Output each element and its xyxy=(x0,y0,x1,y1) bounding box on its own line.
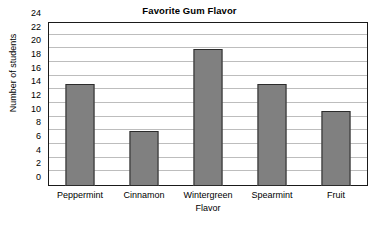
x-axis-tick-labels: PeppermintCinnamonWintergreenSpearmintFr… xyxy=(48,190,368,204)
y-axis-tick-label: 14 xyxy=(31,77,41,86)
y-axis-tick-labels: 024681012141618202224 xyxy=(0,22,46,186)
y-axis-tick-label: 16 xyxy=(31,63,41,72)
y-axis-tick-label: 24 xyxy=(31,9,41,18)
x-axis-tick-label: Peppermint xyxy=(57,190,103,200)
bar-slot xyxy=(112,22,176,186)
bar-slot xyxy=(240,22,304,186)
bar-slot xyxy=(176,22,240,186)
x-axis-tick-label: Fruit xyxy=(327,190,345,200)
bar[interactable] xyxy=(194,49,223,186)
x-axis-tick-label: Spearmint xyxy=(251,190,292,200)
y-axis-tick-label: 8 xyxy=(36,118,41,127)
x-axis-tick-label: Cinnamon xyxy=(123,190,164,200)
bar-slot xyxy=(48,22,112,186)
bar-chart-figure: Favorite Gum Flavor Number of students 0… xyxy=(0,0,379,226)
bar-series xyxy=(48,22,368,186)
y-axis-tick-label: 22 xyxy=(31,22,41,31)
y-axis-tick-label: 10 xyxy=(31,104,41,113)
y-axis-tick-label: 2 xyxy=(36,159,41,168)
y-axis-tick-label: 12 xyxy=(31,91,41,100)
bar[interactable] xyxy=(66,84,95,187)
x-axis-tick-label: Wintergreen xyxy=(183,190,232,200)
bar[interactable] xyxy=(322,111,351,186)
y-axis-tick-label: 0 xyxy=(36,173,41,182)
bar[interactable] xyxy=(258,84,287,187)
x-axis-title: Flavor xyxy=(48,203,368,213)
y-axis-tick-label: 20 xyxy=(31,36,41,45)
bar-slot xyxy=(304,22,368,186)
y-axis-tick-label: 4 xyxy=(36,145,41,154)
y-axis-tick-label: 18 xyxy=(31,50,41,59)
chart-title: Favorite Gum Flavor xyxy=(0,5,379,16)
y-axis-tick-label: 6 xyxy=(36,132,41,141)
bar[interactable] xyxy=(130,131,159,186)
